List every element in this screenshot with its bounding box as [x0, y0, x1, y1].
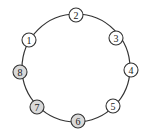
node-7: 7 [30, 100, 44, 114]
node-label: 6 [76, 116, 81, 127]
node-label: 4 [129, 65, 134, 76]
node-1: 1 [22, 33, 36, 47]
node-label: 5 [111, 101, 116, 112]
node-6: 6 [71, 114, 85, 128]
node-5: 5 [106, 99, 120, 113]
node-4: 4 [124, 63, 138, 77]
node-3: 3 [109, 31, 123, 45]
ring-diagram: 12345678 [0, 0, 147, 137]
node-group: 12345678 [13, 8, 138, 128]
node-label: 1 [27, 35, 32, 46]
node-label: 7 [35, 102, 40, 113]
node-8: 8 [13, 65, 27, 79]
node-label: 8 [18, 67, 23, 78]
node-label: 3 [114, 33, 119, 44]
node-2: 2 [69, 8, 83, 22]
node-label: 2 [74, 10, 79, 21]
